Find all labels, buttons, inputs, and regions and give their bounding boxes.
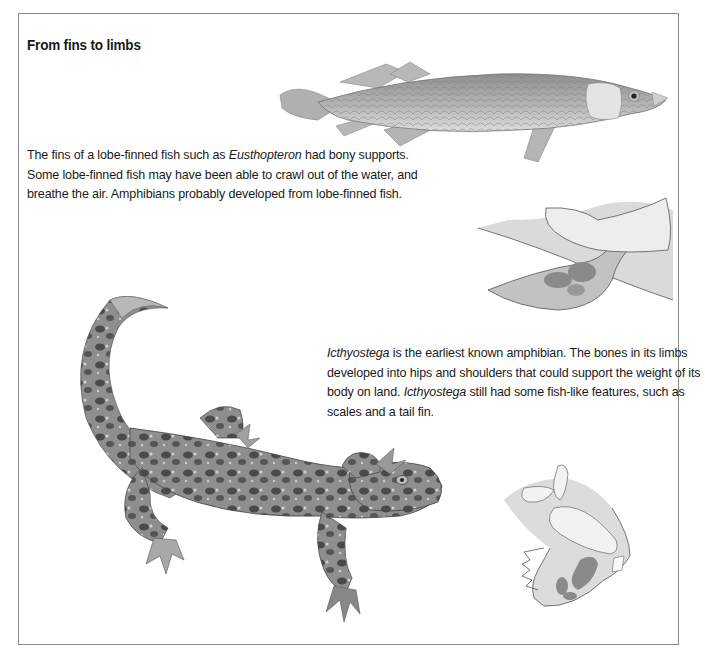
caption-text: The fins of a lobe-finned fish such as bbox=[27, 147, 229, 162]
amphibian-limb-bone-diagram bbox=[494, 460, 644, 610]
eusthenopteron-fish-illustration bbox=[278, 60, 670, 165]
fish-fin-bone-diagram bbox=[478, 190, 678, 310]
page-title: From fins to limbs bbox=[27, 36, 141, 53]
icthyostega-amphibian-illustration bbox=[50, 288, 450, 628]
